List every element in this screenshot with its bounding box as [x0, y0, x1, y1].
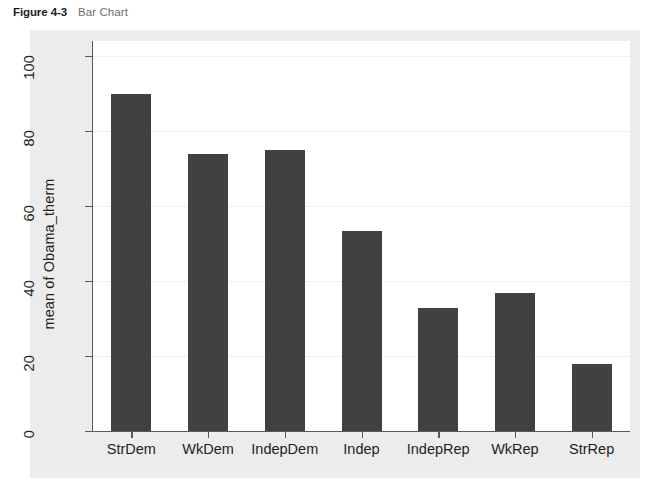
y-tick-mark: [85, 206, 92, 207]
x-tick-label: StrRep: [553, 442, 630, 457]
figure-caption: Figure 4-3 Bar Chart: [13, 6, 128, 24]
y-tick-label: 40: [22, 280, 37, 296]
y-tick-label: 80: [22, 130, 37, 146]
x-tick-label: IndepRep: [400, 442, 477, 457]
x-tick-mark: [131, 432, 132, 438]
bar: [188, 154, 228, 432]
x-tick-label: WkDem: [170, 442, 247, 457]
figure-panel: mean of Obama_therm 020406080100 StrDemW…: [30, 30, 640, 478]
bar-series: [93, 41, 630, 431]
x-tick-label: StrDem: [93, 442, 170, 457]
bar: [572, 364, 612, 431]
y-tick-mark: [85, 431, 92, 432]
y-axis-title-label: mean of Obama_therm: [40, 179, 56, 330]
y-tick-mark: [85, 131, 92, 132]
y-axis-title: mean of Obama_therm: [38, 30, 58, 478]
bar: [418, 308, 458, 431]
x-tick-label: WkRep: [477, 442, 554, 457]
figure-title: Bar Chart: [78, 6, 128, 18]
x-tick-mark: [208, 432, 209, 438]
bar: [111, 94, 151, 432]
x-tick-mark: [438, 432, 439, 438]
y-tick-label: 60: [22, 205, 37, 221]
y-tick-label: 0: [22, 430, 37, 438]
bar: [342, 231, 382, 431]
x-tick-mark: [362, 432, 363, 438]
x-tick-mark: [285, 432, 286, 438]
x-tick-mark: [592, 432, 593, 438]
bar: [265, 150, 305, 431]
x-tick-mark: [515, 432, 516, 438]
y-tick-label: 100: [22, 55, 37, 79]
y-tick-mark: [85, 356, 92, 357]
bar: [495, 293, 535, 431]
x-tick-label: IndepDem: [246, 442, 323, 457]
x-tick-label: Indep: [323, 442, 400, 457]
y-tick-mark: [85, 281, 92, 282]
figure-number: Figure 4-3: [13, 6, 67, 18]
y-tick-label: 20: [22, 355, 37, 371]
y-tick-mark: [85, 56, 92, 57]
